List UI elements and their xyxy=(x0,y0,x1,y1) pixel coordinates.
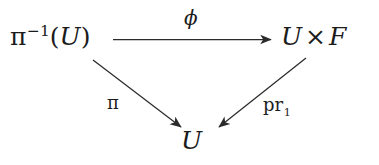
node-preimage-arg: U xyxy=(60,22,81,51)
pr1-base: pr xyxy=(263,94,283,115)
edge-label-pi: π xyxy=(107,94,119,112)
node-preimage: π−1(U) xyxy=(10,24,90,49)
node-product-right: F xyxy=(329,22,346,51)
commutative-diagram: π−1(U) U×F U ϕ π pr1 xyxy=(0,0,379,165)
node-preimage-exponent: −1 xyxy=(27,22,50,40)
node-preimage-open-paren: ( xyxy=(50,22,60,51)
node-preimage-pi: π xyxy=(10,22,26,51)
times-operator: × xyxy=(302,22,329,51)
phi-glyph: ϕ xyxy=(184,6,198,30)
node-preimage-close-paren: ) xyxy=(81,22,91,51)
node-base: U xyxy=(181,128,202,153)
pr1-subscript: 1 xyxy=(284,106,291,119)
node-product: U×F xyxy=(281,24,346,49)
node-base-label: U xyxy=(181,126,202,155)
edge-label-pr1: pr1 xyxy=(263,96,291,118)
pi-glyph: π xyxy=(107,92,119,113)
node-product-left: U xyxy=(281,22,302,51)
edge-label-phi: ϕ xyxy=(184,8,198,28)
